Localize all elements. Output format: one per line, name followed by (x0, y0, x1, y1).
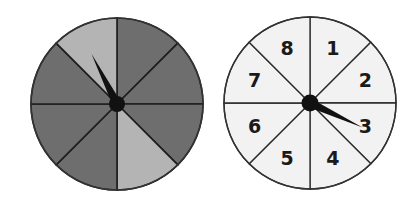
section-label: 5 (280, 147, 293, 169)
section-label: 3 (359, 115, 372, 137)
spinners-diagram: 12345678 (0, 0, 415, 207)
spinner-hub (302, 95, 319, 112)
spinner-hub (109, 96, 125, 112)
section-label: 2 (359, 69, 372, 91)
section-label: 4 (326, 147, 339, 169)
section-label: 1 (326, 37, 339, 59)
shaded-spinner (31, 18, 203, 190)
section-label: 6 (248, 115, 261, 137)
section-label: 7 (248, 69, 261, 91)
numbered-spinner: 12345678 (224, 17, 396, 189)
section-label: 8 (280, 37, 293, 59)
